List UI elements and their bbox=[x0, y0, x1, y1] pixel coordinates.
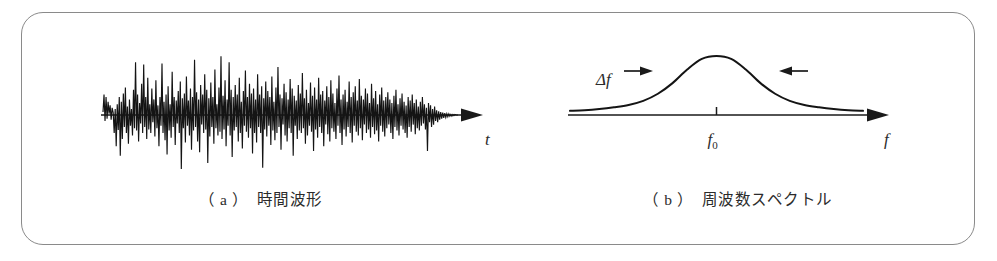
figure-root: t （ a ） 時間波形 Δf f0 bbox=[0, 0, 997, 261]
frequency-axis-label: f bbox=[884, 130, 889, 150]
panel-a-caption: （ a ） 時間波形 bbox=[21, 187, 501, 209]
time-axis-label: t bbox=[485, 130, 490, 150]
time-axis-arrowhead bbox=[461, 109, 483, 122]
f0-tick-label: f0 bbox=[708, 130, 718, 151]
bandwidth-arrow-right-pointing bbox=[624, 67, 653, 76]
bandwidth-arrow-left-pointing bbox=[779, 67, 808, 76]
bandwidth-right-arrowhead bbox=[779, 67, 792, 76]
noise-waveform-trace bbox=[103, 56, 458, 169]
f0-subscript: 0 bbox=[712, 139, 718, 151]
frequency-spectrum-plot bbox=[501, 12, 975, 187]
panel-frequency-spectrum: Δf f0 f （ b ） 周波数スペクトル bbox=[501, 12, 975, 245]
time-waveform-plot bbox=[21, 12, 501, 187]
bandwidth-delta-f-label: Δf bbox=[596, 70, 611, 90]
panel-b-caption: （ b ） 周波数スペクトル bbox=[501, 187, 975, 209]
frequency-axis-arrowhead bbox=[867, 109, 889, 122]
panel-time-waveform: t （ a ） 時間波形 bbox=[21, 12, 501, 245]
spectrum-curve bbox=[570, 56, 863, 111]
bandwidth-left-arrowhead bbox=[640, 67, 653, 76]
